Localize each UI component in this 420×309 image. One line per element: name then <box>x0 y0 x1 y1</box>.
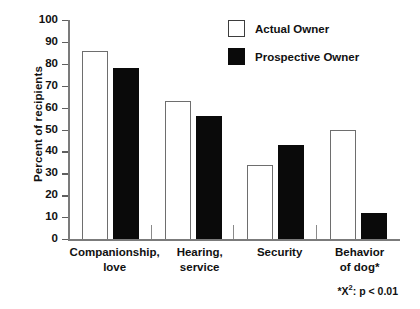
bar-chart-figure: Percent of recipients 100 90 80 70 60 50… <box>0 0 420 309</box>
y-tick-60: 60 <box>62 108 68 109</box>
y-tick-label-30: 30 <box>28 165 58 180</box>
y-tick-40: 40 <box>62 151 68 152</box>
y-tick-10: 10 <box>62 217 68 218</box>
y-tick-20: 20 <box>62 195 68 196</box>
x-label-line1: Security <box>257 246 302 258</box>
y-tick-70: 70 <box>62 86 68 87</box>
y-tick-0: 0 <box>62 239 68 240</box>
bar-prospective-companionship[interactable] <box>113 68 139 239</box>
x-label-line2: of dog* <box>320 260 400 275</box>
y-tick-label-40: 40 <box>28 143 58 158</box>
y-tick-label-100: 100 <box>28 12 58 27</box>
y-tick-label-0: 0 <box>28 231 58 246</box>
x-label-security: Security <box>240 245 320 274</box>
bar-prospective-security[interactable] <box>278 145 304 239</box>
legend: Actual Owner Prospective Owner <box>228 20 359 76</box>
y-tick-50: 50 <box>62 130 68 131</box>
bar-group-hearing-service <box>152 20 235 239</box>
bar-actual-behavior[interactable] <box>330 130 356 240</box>
x-label-line2: love <box>70 260 160 275</box>
y-tick-label-20: 20 <box>28 187 58 202</box>
footnote-prefix: *X <box>338 285 349 297</box>
legend-item-actual-owner[interactable]: Actual Owner <box>228 20 359 37</box>
y-tick-90: 90 <box>62 42 68 43</box>
x-axis-line <box>68 239 400 241</box>
legend-label-actual-owner: Actual Owner <box>255 23 329 35</box>
y-tick-label-10: 10 <box>28 209 58 224</box>
x-label-companionship-love: Companionship, love <box>70 245 160 274</box>
bar-actual-security[interactable] <box>247 165 273 239</box>
legend-swatch-icon-prospective-owner <box>228 48 245 65</box>
x-label-line1: Behavior <box>335 246 384 258</box>
footnote-suffix: : p < 0.01 <box>353 285 398 297</box>
bar-actual-companionship[interactable] <box>82 51 108 239</box>
y-tick-label-90: 90 <box>28 34 58 49</box>
significance-footnote: *X2: p < 0.01 <box>338 283 399 297</box>
x-label-behavior-of-dog: Behavior of dog* <box>320 245 400 274</box>
y-tick-80: 80 <box>62 64 68 65</box>
x-label-line1: Hearing, <box>177 246 223 258</box>
bar-prospective-behavior[interactable] <box>361 213 387 239</box>
x-label-line2: service <box>160 260 240 275</box>
y-tick-100: 100 <box>62 20 68 21</box>
legend-label-prospective-owner: Prospective Owner <box>255 51 359 63</box>
y-tick-label-70: 70 <box>28 78 58 93</box>
bar-actual-hearing[interactable] <box>165 101 191 239</box>
y-tick-label-60: 60 <box>28 100 58 115</box>
y-tick-30: 30 <box>62 173 68 174</box>
legend-swatch-icon-actual-owner <box>228 20 245 37</box>
x-axis-labels: Companionship, love Hearing, service Sec… <box>70 245 400 274</box>
bar-prospective-hearing[interactable] <box>196 116 222 239</box>
y-tick-label-80: 80 <box>28 56 58 71</box>
x-label-hearing-service: Hearing, service <box>160 245 240 274</box>
legend-item-prospective-owner[interactable]: Prospective Owner <box>228 48 359 65</box>
y-tick-label-50: 50 <box>28 122 58 137</box>
bar-group-companionship-love <box>70 20 153 239</box>
x-label-line1: Companionship, <box>70 246 160 258</box>
